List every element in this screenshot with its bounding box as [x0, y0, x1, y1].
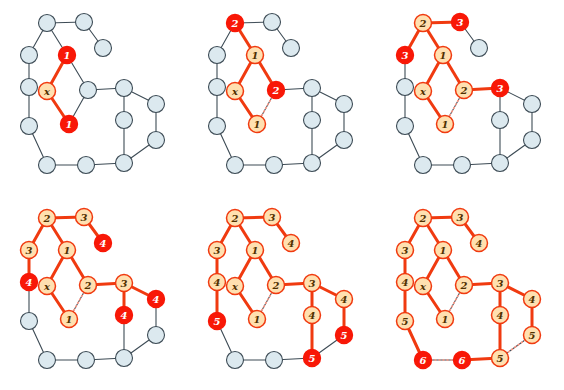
graph-node-unvisited [227, 352, 244, 369]
bfs-panel-grid: 1x121x212313x213234134x21344234134x21534… [0, 0, 564, 390]
node-label: 3 [402, 50, 409, 61]
graph-node-unvisited [304, 80, 321, 97]
graph-canvas: 234134x21534455 [188, 195, 376, 390]
graph-node-unvisited [227, 157, 244, 174]
node-label: 3 [309, 278, 316, 289]
node-label: 5 [497, 353, 504, 364]
node-label: 3 [81, 212, 88, 223]
node-label: 1 [442, 314, 449, 325]
panel-step-3: 2313x213 [376, 0, 564, 195]
plain-edges [217, 285, 344, 360]
graph-canvas: 2313x213 [376, 0, 564, 195]
graph-node-unvisited [283, 40, 300, 57]
graph-node-unvisited [304, 112, 321, 129]
node-label: 2 [231, 213, 239, 224]
node-label: 2 [272, 280, 280, 291]
node-label: x [419, 86, 427, 97]
panel-step-6: 234134x2153445665 [376, 195, 564, 390]
graph-node-unvisited [397, 118, 414, 135]
node-label: 1 [440, 50, 447, 61]
node-label: 1 [64, 245, 71, 256]
graph-node-unvisited [209, 79, 226, 96]
graph-node-unvisited [116, 80, 133, 97]
node-label: 1 [66, 314, 73, 325]
graph-node-unvisited [209, 118, 226, 135]
node-label: 4 [153, 294, 160, 305]
node-label: 1 [254, 314, 261, 325]
graph-node-unvisited [492, 155, 509, 172]
graph-node-unvisited [266, 157, 283, 174]
node-label: 2 [231, 18, 239, 29]
node-label: 1 [254, 119, 261, 130]
node-label: 5 [341, 330, 348, 341]
graph-node-unvisited [21, 47, 38, 64]
node-label: 5 [309, 353, 316, 364]
node-label: 3 [269, 212, 276, 223]
graph-node-unvisited [304, 155, 321, 172]
node-label: 2 [419, 18, 427, 29]
node-label: x [43, 86, 51, 97]
graph-node-unvisited [21, 79, 38, 96]
graph-node-unvisited [39, 352, 56, 369]
tree-edges [235, 23, 276, 124]
graph-node-unvisited [524, 96, 541, 113]
tree-edges [405, 22, 500, 124]
graph-canvas: 21x21 [188, 0, 376, 195]
node-label: x [231, 86, 239, 97]
node-label: 3 [121, 278, 128, 289]
graph-node-unvisited [80, 82, 97, 99]
node-label: 1 [66, 119, 73, 130]
node-label: 4 [26, 277, 33, 288]
graph-node-unvisited [336, 132, 353, 149]
graph-node-unvisited [116, 112, 133, 129]
node-label: 2 [84, 280, 92, 291]
graph-node-unvisited [39, 15, 56, 32]
node-label: 4 [288, 238, 295, 249]
node-label: 4 [476, 238, 483, 249]
graph-node-unvisited [209, 47, 226, 64]
node-label: 6 [420, 355, 427, 366]
node-label: 1 [440, 245, 447, 256]
graph-node-unvisited [266, 352, 283, 369]
graph-node-unvisited [39, 157, 56, 174]
node-label: 4 [309, 310, 316, 321]
graph-node-unvisited [76, 14, 93, 31]
graph-node-unvisited [116, 155, 133, 172]
node-label: 1 [442, 119, 449, 130]
node-label: 3 [457, 17, 464, 28]
node-label: 3 [214, 245, 221, 256]
node-label: 4 [529, 294, 536, 305]
tree-edges [29, 217, 156, 319]
node-label: 3 [457, 212, 464, 223]
graph-node-unvisited [95, 40, 112, 57]
node-label: 6 [459, 355, 466, 366]
graph-node-unvisited [148, 132, 165, 149]
graph-node-unvisited [397, 79, 414, 96]
node-label: 2 [460, 280, 468, 291]
node-label: 4 [214, 277, 221, 288]
graph-node-unvisited [148, 327, 165, 344]
graph-canvas: 234134x21344 [0, 195, 188, 390]
panel-step-5: 234134x21534455 [188, 195, 376, 390]
graph-node-unvisited [21, 118, 38, 135]
graph-node-unvisited [116, 350, 133, 367]
node-label: 1 [252, 50, 259, 61]
node-label: 2 [272, 85, 280, 96]
panel-step-4: 234134x21344 [0, 195, 188, 390]
node-label: 4 [402, 277, 409, 288]
node-label: 1 [252, 245, 259, 256]
node-label: 2 [43, 213, 51, 224]
panel-step-1: 1x1 [0, 0, 188, 195]
node-label: x [43, 281, 51, 292]
node-label: 3 [497, 83, 504, 94]
graph-node-unvisited [454, 157, 471, 174]
graph-node-unvisited [415, 157, 432, 174]
node-label: x [419, 281, 427, 292]
graph-node-unvisited [148, 96, 165, 113]
node-label: x [231, 281, 239, 292]
node-label: 1 [64, 50, 71, 61]
graph-canvas: 1x1 [0, 0, 188, 195]
node-label: 3 [26, 245, 33, 256]
graph-node-unvisited [336, 96, 353, 113]
node-label: 2 [460, 85, 468, 96]
